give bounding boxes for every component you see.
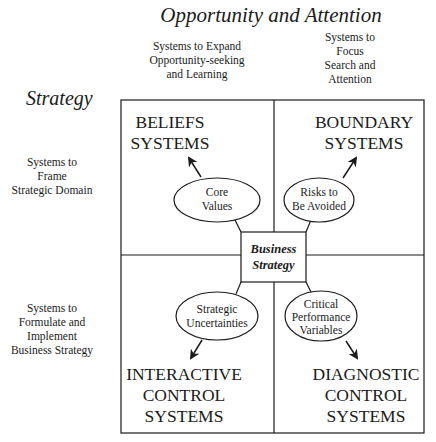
svg-text:SYSTEMS: SYSTEMS	[131, 133, 210, 153]
column-header-expand: Systems to Expand Opportunity-seeking an…	[149, 40, 244, 81]
svg-text:Values: Values	[202, 200, 233, 212]
quadrant-beliefs: BELIEFS SYSTEMS Core Values	[131, 112, 260, 222]
boundary-title: BOUNDARY	[315, 112, 414, 132]
svg-text:Risks to: Risks to	[300, 186, 338, 198]
svg-text:Systems to Expand: Systems to Expand	[153, 40, 241, 53]
arrow-down-left-icon	[191, 340, 202, 358]
quadrant-diagnostic: Critical Performance Variables DIAGNOSTI…	[285, 291, 419, 426]
svg-text:Strategy: Strategy	[252, 258, 295, 272]
center-business-strategy: Business Strategy	[241, 232, 306, 282]
top-axis-title: Opportunity and Attention	[160, 3, 381, 27]
svg-text:Variables: Variables	[300, 324, 343, 336]
svg-text:Critical: Critical	[304, 298, 339, 310]
svg-text:Uncertainties: Uncertainties	[186, 317, 248, 329]
svg-text:SYSTEMS: SYSTEMS	[145, 406, 224, 426]
svg-text:CONTROL: CONTROL	[143, 385, 226, 405]
arrow-up-right-icon	[343, 158, 356, 178]
svg-text:Core: Core	[206, 186, 228, 198]
svg-text:Search and: Search and	[325, 59, 376, 71]
svg-text:Be Avoided: Be Avoided	[292, 200, 346, 212]
svg-text:Systems to: Systems to	[325, 31, 375, 44]
svg-text:Performance: Performance	[292, 311, 351, 323]
svg-text:Implement: Implement	[27, 330, 78, 343]
row-header-frame: Systems to Frame Strategic Domain	[12, 156, 93, 197]
row-header-formulate: Systems to Formulate and Implement Busin…	[11, 302, 93, 357]
svg-text:Formulate and: Formulate and	[19, 316, 86, 328]
svg-text:Business Strategy: Business Strategy	[11, 344, 93, 357]
svg-text:CONTROL: CONTROL	[325, 385, 408, 405]
svg-text:Business: Business	[250, 242, 297, 256]
quadrant-boundary: BOUNDARY SYSTEMS Risks to Be Avoided	[284, 112, 413, 222]
left-axis-title: Strategy	[26, 87, 93, 110]
svg-text:Opportunity-seeking: Opportunity-seeking	[149, 54, 244, 67]
arrow-down-right-icon	[346, 341, 357, 358]
quadrant-interactive: Strategic Uncertainties INTERACTIVE CONT…	[126, 292, 258, 426]
svg-text:Focus: Focus	[336, 45, 364, 57]
beliefs-title: BELIEFS	[135, 112, 204, 132]
interactive-title: INTERACTIVE	[126, 364, 242, 384]
arrow-up-left-icon	[189, 158, 201, 177]
svg-text:SYSTEMS: SYSTEMS	[327, 406, 406, 426]
oval-strategic-uncertainties	[176, 292, 258, 340]
svg-text:Attention: Attention	[328, 73, 372, 85]
column-header-focus: Systems to Focus Search and Attention	[325, 31, 376, 85]
svg-text:Systems to: Systems to	[27, 302, 77, 315]
svg-text:Strategic Domain: Strategic Domain	[12, 184, 93, 197]
svg-text:Frame: Frame	[37, 170, 66, 182]
levers-of-control-diagram: Opportunity and Attention Systems to Exp…	[0, 0, 436, 442]
svg-text:Systems to: Systems to	[27, 156, 77, 169]
diagnostic-title: DIAGNOSTIC	[313, 364, 420, 384]
svg-text:SYSTEMS: SYSTEMS	[325, 133, 404, 153]
svg-text:Strategic: Strategic	[197, 303, 238, 316]
svg-text:and Learning: and Learning	[167, 68, 228, 81]
